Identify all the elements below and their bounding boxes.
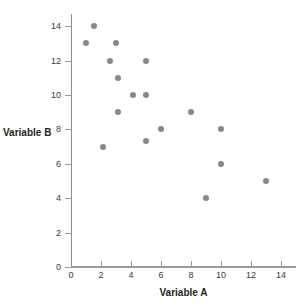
x-tick-label: 8 (180, 271, 202, 280)
x-tick-label: 14 (270, 271, 292, 280)
plot-area: 02468101214 02468101214 (0, 0, 303, 308)
y-tick-mark (65, 233, 71, 234)
x-tick-mark (101, 261, 102, 266)
x-tick-mark (221, 261, 222, 266)
y-tick-mark (65, 198, 71, 199)
data-point (143, 58, 149, 64)
data-point (218, 126, 224, 132)
y-tick-mark (65, 26, 71, 27)
x-tick-label: 0 (60, 271, 82, 280)
data-point (143, 92, 149, 98)
y-tick-label: 6 (39, 160, 61, 169)
y-tick-label: 12 (39, 57, 61, 66)
y-tick-mark (65, 95, 71, 96)
data-point (115, 75, 121, 81)
data-point (143, 138, 149, 144)
x-tick-mark (131, 261, 132, 266)
x-tick-label: 2 (90, 271, 112, 280)
scatter-chart: 02468101214 02468101214 Variable B Varia… (0, 0, 303, 308)
data-point (113, 40, 119, 46)
data-point (83, 40, 89, 46)
data-point (218, 161, 224, 167)
x-tick-label: 12 (240, 271, 262, 280)
data-point (130, 92, 136, 98)
y-tick-mark (65, 267, 71, 268)
data-point (263, 178, 269, 184)
y-tick-label: 4 (39, 194, 61, 203)
data-point (203, 195, 209, 201)
x-axis-line (71, 266, 296, 268)
y-tick-mark (65, 61, 71, 62)
y-axis-title: Variable B (3, 128, 65, 138)
x-tick-mark (191, 261, 192, 266)
y-tick-label: 10 (39, 91, 61, 100)
data-point (107, 58, 113, 64)
x-tick-mark (251, 261, 252, 266)
y-tick-mark (65, 129, 71, 130)
x-tick-label: 6 (150, 271, 172, 280)
x-tick-label: 10 (210, 271, 232, 280)
data-point (115, 109, 121, 115)
y-tick-label: 0 (39, 263, 61, 272)
x-tick-mark (161, 261, 162, 266)
data-point (91, 23, 97, 29)
y-tick-label: 2 (39, 229, 61, 238)
x-tick-label: 4 (120, 271, 142, 280)
x-tick-mark (281, 261, 282, 266)
data-point (100, 144, 106, 150)
data-point (188, 109, 194, 115)
x-axis-title: Variable A (71, 288, 296, 298)
data-point (158, 126, 164, 132)
y-tick-mark (65, 164, 71, 165)
y-tick-label: 14 (39, 22, 61, 31)
y-axis-line (71, 14, 72, 268)
